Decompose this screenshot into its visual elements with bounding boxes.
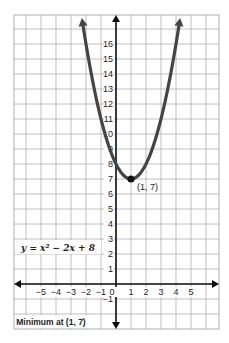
y-tick-label: 4: [108, 219, 113, 229]
vertex-label: (1, 7): [137, 182, 158, 192]
y-tick-label: 5: [108, 204, 113, 214]
y-tick-label: 15: [103, 54, 113, 64]
y-tick-label: 12: [103, 99, 113, 109]
y-tick-label: 1: [108, 264, 113, 274]
equation-label: y = x² − 2x + 8: [20, 243, 96, 253]
x-tick-label: 4: [173, 287, 178, 297]
x-tick-label: 5: [188, 287, 193, 297]
x-tick-label: −4: [51, 287, 61, 297]
parabola-chart: −5−4−3−2−1012345−11234567891011121314151…: [0, 0, 229, 343]
y-tick-label: 6: [108, 189, 113, 199]
minimum-label: Minimum at (1, 7): [16, 317, 86, 327]
y-tick-label: 7: [108, 174, 113, 184]
y-tick-label: 3: [108, 234, 113, 244]
y-tick-label: 14: [103, 69, 113, 79]
x-tick-label: −5: [36, 287, 46, 297]
y-tick-label: 11: [104, 114, 113, 124]
x-tick-label: 2: [143, 287, 148, 297]
x-tick-label: −2: [81, 287, 91, 297]
x-tick-label: 1: [128, 287, 133, 297]
x-tick-label: −3: [66, 287, 76, 297]
vertex-point: [127, 175, 134, 182]
y-tick-label: −1: [103, 294, 113, 304]
y-tick-label: 2: [108, 249, 113, 259]
x-tick-label: 3: [158, 287, 163, 297]
y-tick-label: 13: [103, 84, 113, 94]
y-tick-label: 16: [103, 39, 113, 49]
y-tick-label: 8: [108, 159, 113, 169]
